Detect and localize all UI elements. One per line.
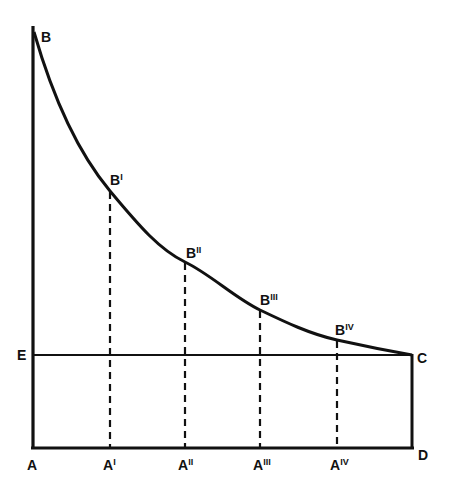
label-b4: BIV — [335, 322, 354, 338]
label-e: E — [17, 347, 26, 363]
label-c: C — [417, 350, 427, 366]
label-d: D — [418, 447, 428, 463]
label-b2: BII — [186, 245, 201, 261]
diagram-canvas: B BI BII BIII BIV E C D A AI AII AIII AI… — [0, 0, 449, 488]
label-a3: AIII — [253, 457, 271, 473]
label-a4: AIV — [330, 457, 349, 473]
label-a1: AI — [103, 457, 116, 473]
label-a2: AII — [178, 457, 193, 473]
label-a: A — [27, 457, 37, 473]
label-b3: BIII — [260, 292, 278, 308]
label-b1: BI — [110, 172, 123, 188]
curve-bc — [34, 32, 412, 355]
label-b: B — [41, 29, 51, 45]
